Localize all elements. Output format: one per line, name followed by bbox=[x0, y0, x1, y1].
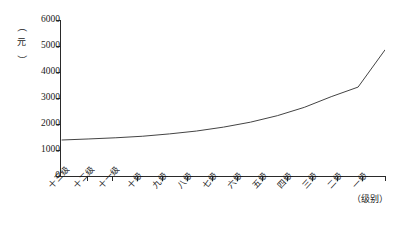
x-axis-title: （级别） bbox=[352, 192, 388, 205]
x-tick-label: 十三级 bbox=[47, 164, 72, 190]
x-tick-label: 四级 bbox=[276, 171, 295, 190]
line-chart: （ 元 ） 6000 5000 4000 3000 2000 1000 0 bbox=[0, 0, 417, 227]
x-tick-label: 八级 bbox=[176, 171, 195, 190]
x-tick-label: 二级 bbox=[326, 171, 345, 190]
x-tick-label: 一级 bbox=[351, 171, 370, 190]
x-tick-label: 五级 bbox=[251, 171, 270, 190]
x-tick-label: 十级 bbox=[126, 171, 145, 190]
x-tick-label: 三级 bbox=[301, 171, 320, 190]
x-tick-label: 七级 bbox=[201, 171, 220, 190]
x-tick-label: 九级 bbox=[151, 171, 170, 190]
x-tick-label: 十二级 bbox=[72, 164, 97, 190]
x-tick-label: 十一级 bbox=[97, 164, 122, 190]
x-tick-label: 六级 bbox=[226, 171, 245, 190]
